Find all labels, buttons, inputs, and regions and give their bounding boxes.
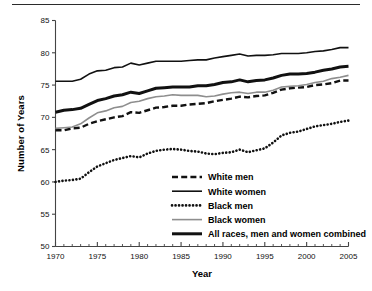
- series-line: [56, 75, 349, 128]
- y-tick-label: 80: [41, 49, 50, 58]
- x-axis-major-ticks: [56, 242, 349, 247]
- y-tick-label: 75: [41, 81, 50, 90]
- legend-label: All races, men and women combined: [208, 229, 366, 239]
- series-line: [56, 48, 349, 82]
- x-tick-label: 2005: [340, 252, 358, 261]
- x-axis-tick-labels: 19701975198019851990199520002005: [47, 252, 358, 261]
- y-tick-label: 60: [41, 178, 50, 187]
- x-tick-label: 1975: [88, 252, 106, 261]
- chart-legend: White menWhite womenBlack menBlack women…: [172, 172, 366, 239]
- y-tick-label: 50: [41, 242, 50, 251]
- legend-label: Black women: [208, 215, 266, 225]
- legend-label: White men: [208, 172, 254, 182]
- legend-label: Black men: [208, 201, 253, 211]
- x-axis-group: 19701975198019851990199520002005: [47, 242, 358, 261]
- y-axis-group: 5055606570758085: [41, 16, 56, 251]
- series-line: [56, 66, 349, 112]
- x-tick-label: 1995: [256, 252, 274, 261]
- series-line: [56, 81, 349, 131]
- line-chart-plot: 5055606570758085 19701975198019851990199…: [0, 0, 372, 291]
- y-tick-label: 55: [41, 210, 50, 219]
- legend-label: White women: [208, 187, 266, 197]
- x-tick-label: 1970: [47, 252, 65, 261]
- y-axis-tick-labels: 5055606570758085: [41, 16, 50, 251]
- y-tick-label: 85: [41, 16, 50, 25]
- series-line: [56, 121, 349, 182]
- data-series-group: [56, 48, 349, 182]
- y-tick-label: 65: [41, 146, 50, 155]
- x-tick-label: 2000: [298, 252, 316, 261]
- y-tick-label: 70: [41, 113, 50, 122]
- x-tick-label: 1985: [172, 252, 190, 261]
- x-tick-label: 1980: [130, 252, 148, 261]
- life-expectancy-figure: Number of Years Year 5055606570758085 19…: [0, 0, 372, 291]
- x-tick-label: 1990: [214, 252, 232, 261]
